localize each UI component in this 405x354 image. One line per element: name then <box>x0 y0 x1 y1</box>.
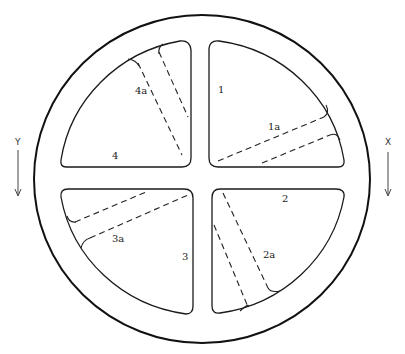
quadrant-4: 4a 4 <box>61 41 191 167</box>
band-3a-corner-inner <box>81 238 90 248</box>
quadrant-2-outline <box>212 189 344 313</box>
band-2a-line-outer <box>223 193 268 288</box>
quadrant-3-outline <box>61 189 193 314</box>
band-4a-line-outer <box>159 52 188 117</box>
quadrant-2: 2 2a <box>212 189 344 313</box>
y-axis-label: Y <box>14 137 21 147</box>
circular-segment-diagram: 4a 4 1 1a 3a 3 2 2a Y X <box>0 0 405 354</box>
quadrant-1: 1 1a <box>209 41 344 167</box>
band-label-2a: 2a <box>263 249 275 260</box>
quadrant-label-1: 1 <box>218 84 224 95</box>
band-2a-line-inner <box>214 225 248 307</box>
band-2a-corner-outer <box>268 288 280 292</box>
quadrant-label-4: 4 <box>112 150 118 161</box>
x-axis-label: X <box>385 137 391 147</box>
quadrant-label-2: 2 <box>282 193 288 204</box>
band-4a-line-inner <box>138 63 182 155</box>
band-3a-line-outer <box>75 192 146 222</box>
y-direction-indicator: Y <box>14 137 21 196</box>
band-label-1a: 1a <box>268 121 280 132</box>
band-label-3a: 3a <box>112 233 124 244</box>
band-3a-line-inner <box>90 195 188 238</box>
outer-rim <box>34 15 370 343</box>
quadrant-label-3: 3 <box>182 251 188 262</box>
quadrant-3: 3a 3 <box>61 189 193 314</box>
x-direction-indicator: X <box>385 137 391 196</box>
quadrant-4-outline <box>61 41 191 167</box>
band-label-4a: 4a <box>135 85 147 96</box>
quadrant-1-outline <box>209 41 344 167</box>
band-3a-corner-outer <box>67 216 76 222</box>
band-1a-line-outer <box>262 135 330 163</box>
